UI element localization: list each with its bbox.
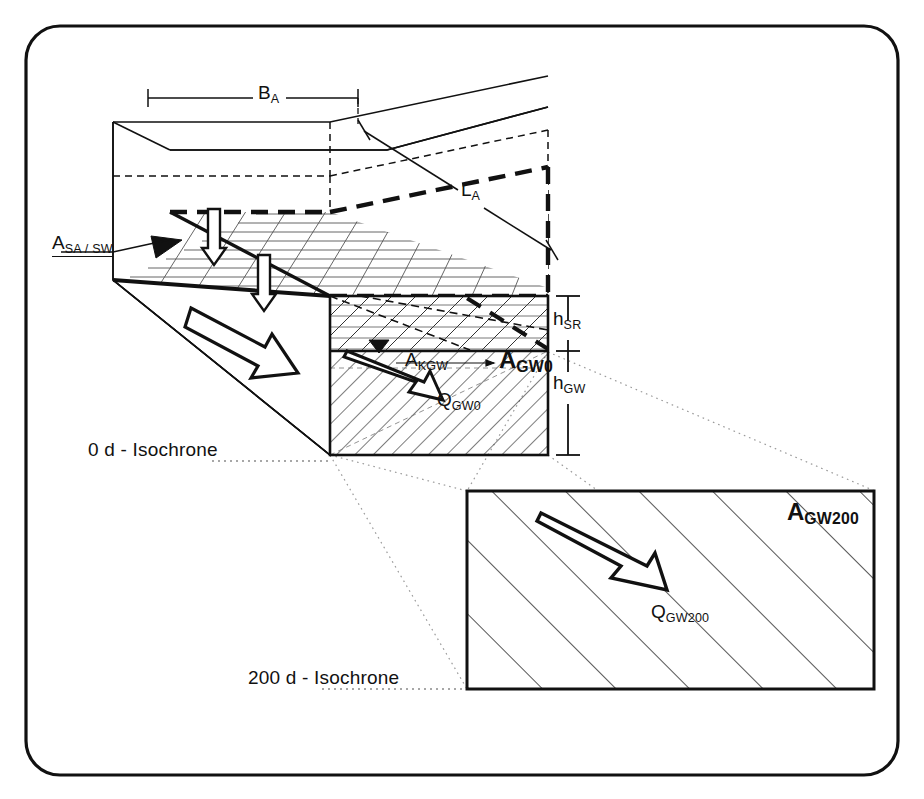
label-length-dimension: LA	[461, 180, 480, 202]
label-gw-flow-0: QGW0	[437, 390, 481, 412]
label-gw-area-0: AGW0	[499, 348, 553, 375]
label-height-unsaturated: hSR	[553, 309, 581, 331]
label-width-dimension: BA	[258, 83, 279, 105]
dimension-BA	[148, 89, 358, 107]
left-wall-bottom	[113, 280, 330, 455]
label-height-groundwater: hGW	[553, 373, 586, 395]
surface-runoff-arrow	[185, 308, 298, 378]
label-gw-flow-200: QGW200	[651, 602, 709, 624]
label-capillary-area: AKGW	[405, 350, 448, 372]
figure-canvas: BA LA ASA / SW AKGW AGW0 QGW0 hSR hGW 0 …	[0, 0, 924, 799]
label-surface-area: ASA / SW	[52, 233, 113, 257]
label-gw-area-200: AGW200	[787, 500, 859, 527]
label-isochrone-0: 0 d - Isochrone	[88, 440, 218, 459]
dimension-hGW	[556, 351, 580, 455]
label-isochrone-200: 200 d - Isochrone	[248, 668, 399, 687]
